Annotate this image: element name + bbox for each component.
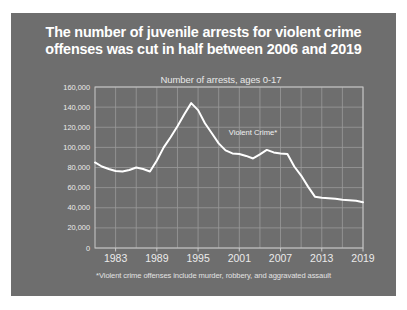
svg-text:0: 0 [86,244,90,253]
y-axis-tick-labels: 020,00040,00060,00080,000100,000120,0001… [63,83,90,253]
plot-area-wrapper: 020,00040,00060,00080,000100,000120,0001… [11,13,396,296]
svg-text:60,000: 60,000 [67,183,90,192]
svg-text:100,000: 100,000 [63,143,90,152]
svg-text:40,000: 40,000 [67,203,90,212]
chart-footnote: *Violent crime offenses include murder, … [41,271,386,280]
svg-text:1995: 1995 [186,252,210,264]
line-chart-svg: 020,00040,00060,00080,000100,000120,0001… [11,13,396,296]
svg-text:120,000: 120,000 [63,123,90,132]
chart-panel: The number of juvenile arrests for viole… [11,13,396,296]
svg-text:2019: 2019 [351,252,375,264]
series-annotation: Violent Crime* [229,128,277,137]
svg-text:80,000: 80,000 [67,163,90,172]
svg-text:Violent Crime*: Violent Crime* [229,128,277,137]
svg-text:2001: 2001 [228,252,252,264]
svg-text:140,000: 140,000 [63,103,90,112]
svg-text:1983: 1983 [104,252,128,264]
x-axis-tick-labels: 1983198919952001200720132019 [104,252,375,264]
svg-text:1989: 1989 [145,252,169,264]
svg-text:160,000: 160,000 [63,83,90,92]
chart-figure: The number of juvenile arrests for viole… [0,0,407,310]
svg-text:2013: 2013 [310,252,334,264]
x-axis-ticks [116,248,363,252]
svg-text:20,000: 20,000 [67,223,90,232]
svg-text:2007: 2007 [269,252,293,264]
